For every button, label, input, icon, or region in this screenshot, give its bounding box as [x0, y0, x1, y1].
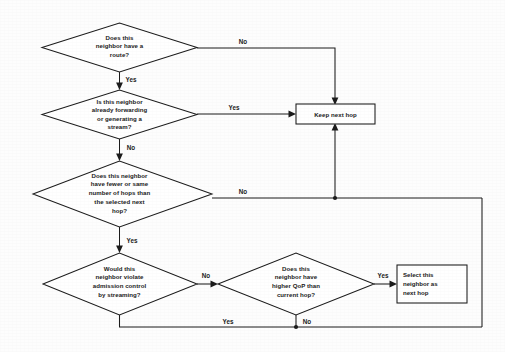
edge-label-d2-yes: Yes	[229, 104, 240, 111]
d2-line-3: stream?	[107, 123, 131, 130]
d1-line-0: Does this	[106, 34, 134, 41]
d2-line-2: or generating a	[97, 115, 142, 122]
edge-label-d2-no: No	[127, 144, 136, 151]
edge-d5-no	[294, 315, 298, 329]
decision-node-is-this-neighbor-already-forwarding[interactable]: Is this neighbor already forwarding or g…	[42, 90, 197, 139]
d3-line-1: have fewer or same	[91, 180, 149, 187]
edge-d2-no	[116, 139, 123, 161]
d4-line-3: by streaming?	[98, 291, 141, 298]
decision-node-would-this-neighbor-violate-admission-control[interactable]: Would this neighbor violate admission co…	[43, 253, 197, 315]
d5-line-0: Does this	[282, 265, 310, 272]
d3-line-3: the selected next	[94, 198, 144, 205]
p2-line-1: neighbor as	[403, 280, 438, 287]
process-node-select-this-neighbor-as-next-hop[interactable]: Select this neighbor as next hop	[397, 265, 467, 303]
d5-line-3: current hop?	[277, 291, 315, 298]
edge-d4-yes	[120, 315, 483, 327]
d2-line-0: Is this neighbor	[96, 98, 143, 105]
edge-label-d3-yes: Yes	[127, 237, 138, 244]
d4-line-2: admission control	[93, 282, 147, 289]
edge-label-d5-yes: Yes	[378, 272, 389, 279]
p2-line-2: next hop	[403, 289, 429, 296]
edge-d4-no	[197, 281, 218, 288]
edge-label-d1-yes: Yes	[126, 76, 137, 83]
edge-d1-no	[197, 48, 338, 105]
process-node-keep-next-hop[interactable]: Keep next hop	[296, 104, 375, 124]
d3-line-2: number of hops than	[89, 189, 151, 196]
edge-label-d4-yes: Yes	[223, 318, 234, 325]
d1-line-2: route?	[110, 51, 129, 58]
flowchart-canvas: Does this neighbor have a route? Is this…	[0, 0, 505, 352]
d3-line-0: Does this neighbor	[91, 172, 148, 179]
decision-node-does-this-neighbor-have-a-route[interactable]: Does this neighbor have a route?	[42, 23, 197, 72]
edge-label-d4-no: No	[202, 272, 211, 279]
d3-line-4: hop?	[112, 207, 127, 214]
edge-d2-yes	[197, 111, 296, 118]
d5-line-2: higher QoP than	[272, 282, 320, 289]
edge-d1-yes	[116, 72, 123, 90]
edge-label-d5-no: No	[303, 318, 312, 325]
edge-d3-no	[212, 196, 482, 200]
edge-return-to-keep-next-hop	[332, 123, 339, 198]
edge-d3-yes	[116, 227, 123, 253]
p2-line-0: Select this	[403, 271, 434, 278]
d5-line-1: neighbor have	[275, 273, 318, 280]
d2-line-1: already forwarding	[92, 106, 148, 113]
p1-line-0: Keep next hop	[314, 111, 357, 118]
edge-d5-yes	[374, 281, 397, 288]
decision-node-does-this-neighbor-have-fewer-or-same-hops[interactable]: Does this neighbor have fewer or same nu…	[33, 161, 212, 227]
d4-line-1: neighbor violate	[96, 273, 144, 280]
flowchart-svg: Does this neighbor have a route? Is this…	[0, 0, 505, 352]
d1-line-1: neighbor have a	[96, 42, 144, 49]
d4-line-0: Would this	[104, 265, 136, 272]
decision-node-does-this-neighbor-have-higher-qop[interactable]: Does this neighbor have higher QoP than …	[218, 253, 374, 315]
edge-label-d3-no: No	[239, 188, 248, 195]
edge-label-d1-no: No	[239, 38, 248, 45]
